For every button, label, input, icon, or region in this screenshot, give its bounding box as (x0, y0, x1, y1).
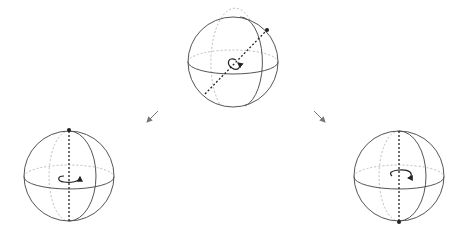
pole-dot (265, 28, 269, 32)
sphere-outline (188, 17, 278, 107)
meridian-front (240, 17, 262, 106)
diagram-canvas (0, 0, 466, 235)
arrow-down-left-icon (147, 111, 158, 122)
rotation-icon (391, 170, 412, 178)
sphere-left (24, 128, 114, 221)
arrow-down-right-icon (314, 111, 325, 122)
pole-dot-top (67, 128, 71, 132)
sphere-top (188, 8, 278, 107)
meridian-back (211, 8, 250, 105)
pole-dot-bottom (397, 220, 401, 224)
meridian-front (399, 131, 426, 221)
sphere-right (354, 131, 444, 224)
equator-back (188, 50, 278, 62)
meridian-back (49, 131, 69, 221)
spin-axis (205, 30, 267, 94)
meridian-back (379, 131, 399, 221)
meridian-front (69, 131, 96, 221)
